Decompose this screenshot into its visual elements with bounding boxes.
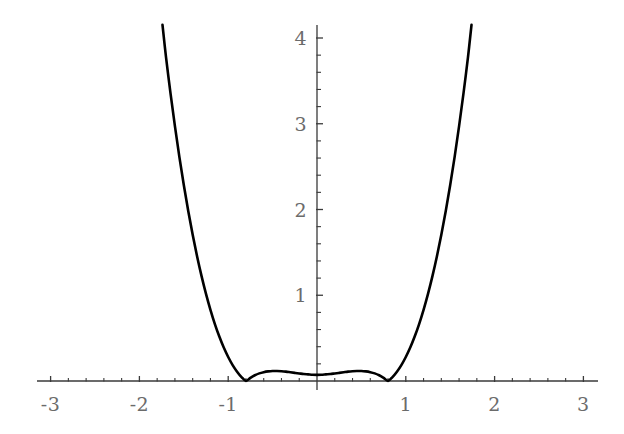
y-tick-label: 2 bbox=[291, 200, 307, 219]
x-tick-label: 2 bbox=[488, 395, 501, 414]
x-tick-label: 3 bbox=[577, 395, 590, 414]
y-tick-label: 3 bbox=[291, 114, 307, 133]
plot-figure: -3-2-1123 1234 bbox=[0, 0, 624, 434]
y-tick-label: 4 bbox=[291, 29, 307, 48]
plot-canvas bbox=[0, 0, 624, 434]
y-axis-group bbox=[316, 25, 323, 390]
x-tick-label: -1 bbox=[218, 395, 238, 414]
y-tick-label: 1 bbox=[291, 286, 307, 305]
x-tick-label: -3 bbox=[41, 395, 61, 414]
x-tick-label: -2 bbox=[130, 395, 150, 414]
x-tick-label: 1 bbox=[400, 395, 413, 414]
